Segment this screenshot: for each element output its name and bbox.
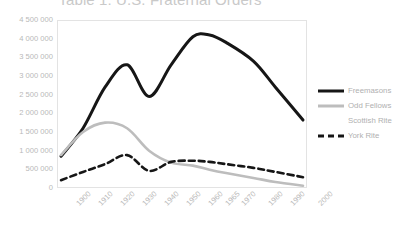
y-axis-tick-label: 3 500 000 [19,54,53,62]
chart-legend: FreemasonsOdd FellowsScottish RiteYork R… [318,83,406,143]
x-axis-tick-label: 1970 [240,190,257,207]
legend-swatch-icon [318,131,344,141]
y-axis-tick-label: 3 000 000 [19,72,53,80]
x-axis-tick-label: 2000 [317,190,334,207]
x-axis-tick-label: 1940 [163,190,180,207]
legend-item-label: Freemasons [348,87,391,95]
y-axis-tick-label: 0 [49,184,53,192]
x-axis-tick-label: 1960 [207,190,224,207]
fraternal-orders-chart: Table 1: U.S. Fraternal Orders 4 500 000… [0,0,406,225]
y-axis-tick-label: 2 000 000 [19,110,53,118]
series-line-york-rite [61,155,303,180]
legend-swatch-icon [318,101,344,111]
x-axis-tick-label: 1930 [141,190,158,207]
series-line-odd-fellows [61,123,303,186]
y-axis-tick-label: 500 000 [26,166,53,174]
legend-item-odd-fellows[interactable]: Odd Fellows [318,98,406,113]
x-axis: 1900191019201930194019501960196519701980… [57,190,307,224]
x-axis-tick-label: 1965 [224,190,241,207]
x-axis-tick-label: 1920 [119,190,136,207]
x-axis-tick-label: 1990 [289,190,306,207]
plot-lines [57,20,307,188]
y-axis-tick-label: 1 000 000 [19,147,53,155]
x-axis-tick-label: 1900 [75,190,92,207]
x-axis-tick-label: 1910 [97,190,114,207]
legend-swatch-icon [318,86,344,96]
y-axis-tick-label: 2 500 000 [19,91,53,99]
legend-item-york-rite[interactable]: York Rite [318,128,406,143]
y-axis: 4 500 0004 000 0003 500 0003 000 0002 50… [0,20,53,188]
legend-item-label: Scottish Rite [348,117,392,125]
legend-item-freemasons[interactable]: Freemasons [318,83,406,98]
chart-title: Table 1: U.S. Fraternal Orders [0,0,320,8]
y-axis-tick-label: 4 000 000 [19,35,53,43]
series-line-freemasons [61,34,303,157]
y-axis-tick-label: 1 500 000 [19,128,53,136]
x-axis-tick-label: 1950 [185,190,202,207]
legend-item-label: York Rite [348,132,379,140]
legend-item-scottish-rite[interactable]: Scottish Rite [318,113,406,128]
legend-item-label: Odd Fellows [348,102,391,110]
x-axis-tick-label: 1980 [267,190,284,207]
y-axis-tick-label: 4 500 000 [19,16,53,24]
legend-swatch-icon [318,116,344,126]
